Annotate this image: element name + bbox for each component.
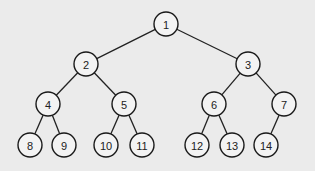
edge-5-11 — [129, 115, 137, 134]
tree-node-9: 9 — [52, 133, 76, 157]
node-label: 2 — [83, 59, 89, 71]
node-label: 10 — [100, 140, 112, 152]
tree-edges — [35, 29, 279, 134]
node-label: 3 — [245, 59, 251, 71]
tree-nodes: 1234567891011121314 — [18, 12, 296, 157]
edge-4-8 — [35, 115, 43, 134]
tree-node-6: 6 — [202, 92, 226, 116]
node-label: 11 — [136, 140, 147, 152]
edge-2-5 — [94, 73, 115, 96]
binary-tree-diagram: 1234567891011121314 — [0, 0, 315, 171]
edge-6-12 — [202, 115, 210, 134]
tree-node-5: 5 — [112, 92, 136, 116]
edge-4-9 — [52, 115, 59, 134]
node-label: 12 — [191, 140, 203, 152]
node-label: 6 — [211, 99, 217, 111]
tree-node-10: 10 — [94, 133, 118, 157]
tree-node-8: 8 — [18, 133, 42, 157]
node-label: 1 — [163, 19, 169, 31]
edge-3-6 — [222, 73, 240, 95]
tree-node-3: 3 — [236, 52, 260, 76]
node-label: 7 — [281, 99, 287, 111]
edge-7-14 — [271, 115, 279, 134]
node-label: 4 — [45, 99, 51, 111]
tree-node-13: 13 — [220, 133, 244, 157]
edge-2-4 — [56, 73, 77, 96]
tree-node-14: 14 — [254, 133, 278, 157]
tree-node-1: 1 — [154, 12, 178, 36]
edge-5-10 — [111, 115, 119, 134]
node-label: 13 — [226, 140, 238, 152]
node-label: 5 — [121, 99, 127, 111]
tree-node-4: 4 — [36, 92, 60, 116]
tree-node-2: 2 — [74, 52, 98, 76]
tree-node-12: 12 — [185, 133, 209, 157]
tree-node-7: 7 — [272, 92, 296, 116]
edge-1-2 — [97, 29, 156, 58]
node-label: 14 — [260, 140, 272, 152]
node-label: 9 — [61, 140, 67, 152]
tree-node-11: 11 — [130, 133, 154, 157]
edge-3-7 — [256, 73, 276, 95]
edge-6-13 — [219, 115, 227, 134]
edge-1-3 — [177, 29, 237, 58]
node-label: 8 — [27, 140, 33, 152]
